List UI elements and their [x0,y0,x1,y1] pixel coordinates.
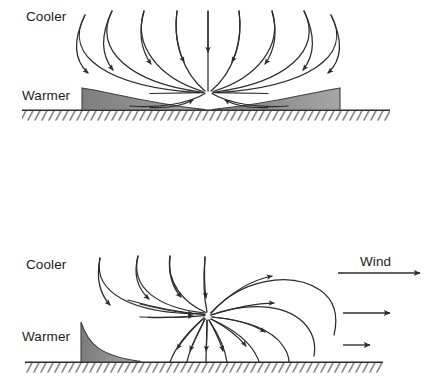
lower-label-warmer: Warmer [22,330,70,344]
upper-streamline-spoke-right [213,93,268,94]
upper-streamline-r1-arrow [232,11,240,62]
upper-ground-hatching [22,111,390,121]
lower-streamline-l4-arrow [204,257,206,298]
lower-streamline-r3 [212,317,289,362]
upper-streamline-r4-arrow [328,15,340,73]
lower-streamline-r1 [211,280,336,335]
lower-streamline-l3-arrow [169,256,181,297]
lower-label-cooler: Cooler [26,258,66,272]
lower-warm-wedge-left [81,322,140,362]
figure-container: Cooler Warmer Cooler Warmer Wind [0,0,441,389]
upper-label-cooler: Cooler [26,10,66,24]
upper-label-warmer: Warmer [22,89,70,103]
upper-ground [22,110,390,120]
lower-streamlines [98,256,335,362]
wind-arrow-group [338,273,420,345]
lower-streamline-r2-arrow [211,303,274,315]
lower-streamline-l3 [169,256,206,313]
lower-ground-hatching [25,363,383,373]
upper-streamline-r1 [211,11,240,91]
lower-streamline-r8 [170,318,204,362]
lower-ground [25,362,383,372]
upper-streamline-spoke-left [150,93,204,94]
upper-streamline-l3 [107,11,201,92]
lower-streamline-l1-arrow [98,258,110,305]
upper-panel [22,11,390,121]
upper-streamline-l1 [176,11,205,91]
upper-streamline-l4-arrow [76,15,88,73]
upper-streamline-r3 [215,11,309,92]
upper-streamlines [76,11,339,108]
lower-panel [25,256,420,373]
lower-streamline-r8-arrow [177,318,204,349]
lower-streamline-r6-arrow [206,320,207,351]
lower-label-wind: Wind [360,255,391,269]
upper-streamline-l1-arrow [176,11,184,62]
